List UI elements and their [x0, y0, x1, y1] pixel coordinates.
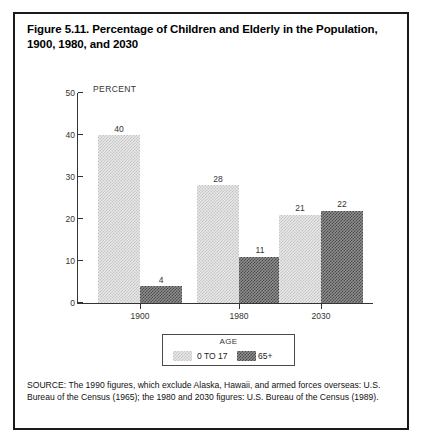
- x-axis-line: [77, 303, 373, 304]
- bar-value-2030-children: 21: [280, 203, 320, 213]
- y-axis-tick-label: 40: [66, 129, 75, 141]
- bar-1980-children: [197, 185, 239, 303]
- bar-value-1980-children: 28: [198, 174, 238, 184]
- bar-1900-elderly: [140, 286, 182, 303]
- figure-frame: Figure 5.11. Percentage of Children and …: [13, 12, 409, 430]
- legend-title: AGE: [163, 337, 294, 346]
- legend-swatch-elderly: [237, 351, 256, 361]
- source-note: SOURCE: The 1990 figures, which exclude …: [27, 380, 401, 403]
- bar-value-2030-elderly: 22: [322, 199, 362, 209]
- bar-value-1900-children: 40: [99, 124, 139, 134]
- y-axis-tick-label: 20: [66, 213, 75, 225]
- y-axis-tick-label: 50: [66, 87, 75, 99]
- x-axis-label-2030: 2030: [291, 311, 351, 321]
- x-axis-label-1980: 1980: [209, 311, 269, 321]
- x-axis-tick-2030: [321, 303, 322, 309]
- bar-1900-children: [98, 135, 140, 303]
- bar-chart-plot-area: PERCENT 0 10 20 30 40 50: [15, 66, 411, 328]
- legend-label-children: 0 TO 17: [197, 350, 227, 362]
- bar-group-2030: 21 22: [259, 93, 383, 303]
- x-axis-label-1900: 1900: [110, 311, 170, 321]
- bar-value-1900-elderly: 4: [141, 275, 181, 285]
- figure-title: Figure 5.11. Percentage of Children and …: [27, 22, 395, 52]
- y-axis-tick-label: 10: [66, 255, 75, 267]
- y-axis-tick-label: 30: [66, 171, 75, 183]
- legend-swatch-children: [173, 351, 192, 361]
- y-axis-tick-label: 0: [70, 297, 75, 309]
- x-axis-tick-1900: [140, 303, 141, 309]
- chart-legend: AGE 0 TO 17 65+: [162, 334, 295, 366]
- bar-2030-elderly: [321, 211, 363, 303]
- bar-2030-children: [279, 215, 321, 303]
- legend-label-elderly: 65+: [258, 350, 272, 362]
- x-axis-tick-1980: [239, 303, 240, 309]
